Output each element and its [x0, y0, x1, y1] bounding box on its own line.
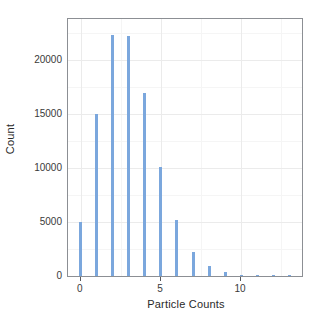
x-axis-tick-labels: 0510 [0, 0, 318, 327]
x-axis-title: Particle Counts [68, 298, 304, 310]
x-tick-mark [240, 277, 241, 281]
x-tick-label: 5 [157, 283, 163, 294]
x-tick-mark [160, 277, 161, 281]
x-tick-label: 0 [77, 283, 83, 294]
x-tick-mark [80, 277, 81, 281]
x-tick-label: 10 [235, 283, 246, 294]
chart-figure: Count 05000100001500020000 0510 Particle… [0, 0, 318, 327]
